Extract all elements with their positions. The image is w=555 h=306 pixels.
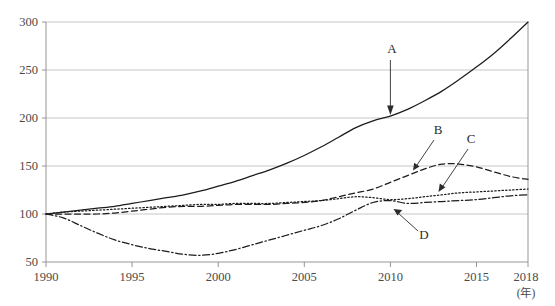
x-tick-label-2018: 2018 — [514, 270, 539, 284]
y-tick-label-150: 150 — [19, 159, 38, 173]
gridlines — [46, 22, 528, 214]
series-label-c: C — [467, 131, 476, 146]
annotation-b-arrowhead — [413, 163, 420, 171]
y-tick-label-50: 50 — [26, 255, 39, 269]
y-tick-label-200: 200 — [19, 111, 38, 125]
axes — [46, 22, 528, 262]
x-axis-unit-label: (年) — [517, 286, 536, 300]
annotation-d-leader — [398, 213, 418, 231]
annotation-c-leader — [443, 149, 468, 186]
y-tick-label-100: 100 — [19, 207, 38, 221]
data-series — [46, 22, 528, 255]
annotation-c: C — [439, 131, 476, 192]
x-tick-label-1990: 1990 — [34, 270, 59, 284]
annotation-a-arrowhead — [387, 106, 394, 116]
series-label-a: A — [387, 41, 397, 56]
annotation-b: B — [413, 122, 443, 171]
annotation-b-leader — [417, 140, 434, 165]
x-tick-label-2015: 2015 — [464, 270, 489, 284]
line-chart: 300 250 200 150 100 50 1990 1995 2000 20… — [0, 0, 555, 306]
series-line-c — [46, 189, 528, 214]
annotation-a: A — [387, 41, 397, 115]
series-label-b: B — [434, 122, 443, 137]
series-line-b — [46, 164, 528, 214]
x-tick-label-1995: 1995 — [120, 270, 145, 284]
y-tick-labels: 300 250 200 150 100 50 — [19, 15, 38, 269]
y-tick-label-250: 250 — [19, 63, 38, 77]
x-tick-label-2000: 2000 — [206, 270, 231, 284]
y-tick-label-300: 300 — [19, 15, 38, 29]
x-tick-label-2010: 2010 — [378, 270, 403, 284]
chart-container: 300 250 200 150 100 50 1990 1995 2000 20… — [0, 0, 555, 306]
annotation-d-arrowhead — [394, 209, 403, 215]
y-tick-marks — [42, 22, 46, 262]
x-tick-marks — [46, 262, 528, 267]
series-label-d: D — [419, 227, 428, 242]
x-tick-labels: 1990 1995 2000 2005 2010 2015 2018 (年) — [34, 270, 539, 300]
x-tick-label-2005: 2005 — [292, 270, 317, 284]
